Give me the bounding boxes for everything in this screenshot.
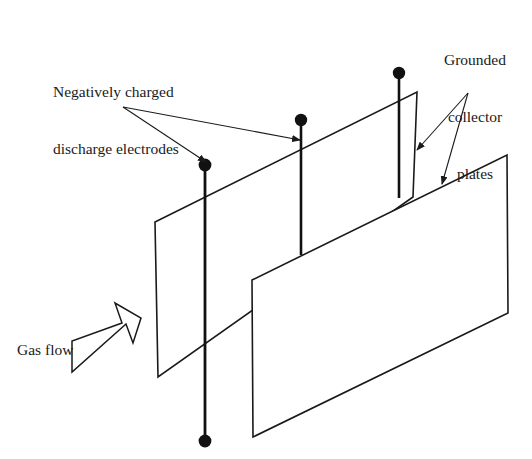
figure-canvas: Negatively charged discharge electrodes … [0, 0, 532, 459]
label-collector-plates-line1: Grounded [421, 50, 529, 69]
label-discharge-electrodes-line1: Negatively charged [53, 82, 179, 101]
discharge-electrode-right-top-dot [393, 67, 405, 79]
discharge-electrode-left-bottom-dot [199, 435, 212, 448]
label-collector-plates: Grounded collector plates [421, 12, 529, 221]
label-discharge-electrodes-line2: discharge electrodes [53, 139, 179, 158]
label-discharge-electrodes: Negatively charged discharge electrodes [53, 44, 179, 196]
label-gas-flow: Gas flow [17, 302, 73, 397]
discharge-electrode-left-top-dot [199, 159, 212, 172]
discharge-electrode-middle-top-dot [295, 114, 307, 126]
label-collector-plates-line3: plates [421, 164, 529, 183]
label-collector-plates-line2: collector [421, 107, 529, 126]
label-gas-flow-text: Gas flow [17, 340, 73, 359]
gas-flow-arrow [72, 303, 141, 372]
